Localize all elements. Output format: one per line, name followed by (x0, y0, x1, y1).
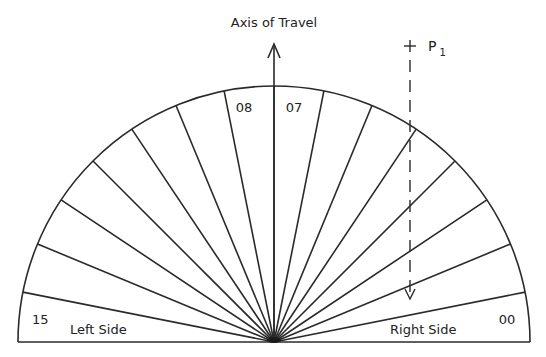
point-label: P1 (428, 38, 446, 58)
sector-label-07: 07 (286, 100, 303, 115)
center-hub (267, 337, 281, 343)
sector-label-00: 00 (499, 312, 516, 327)
sector-spoke (176, 106, 274, 343)
sector-label-15: 15 (32, 312, 49, 327)
sector-diagram: Axis of Travel P1 15 08 07 00 Left Side … (0, 0, 546, 357)
p1-path (404, 40, 416, 299)
sector-spoke (274, 161, 455, 342)
axis-label: Axis of Travel (231, 15, 317, 30)
axis-of-travel-arrow (268, 44, 280, 342)
sector-spoke (93, 161, 274, 342)
left-side-label: Left Side (70, 322, 127, 337)
right-side-label: Right Side (390, 322, 456, 337)
sector-spoke (274, 106, 372, 343)
sector-label-08: 08 (236, 100, 253, 115)
